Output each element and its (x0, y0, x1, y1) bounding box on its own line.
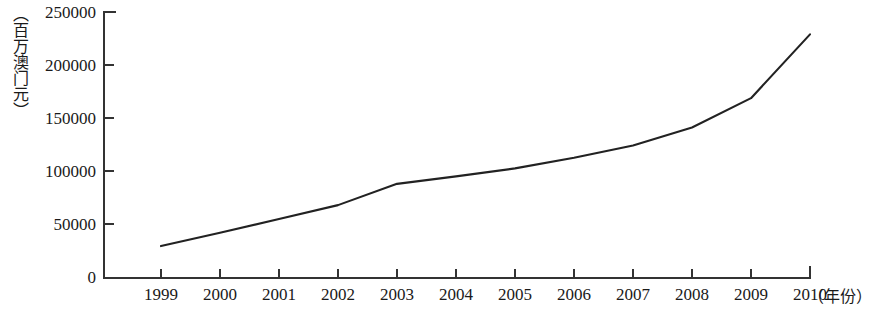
x-tick-label: 2008 (662, 286, 722, 304)
x-tick-label: 2005 (485, 286, 545, 304)
plot-area (0, 0, 879, 310)
line-chart: （百万澳门元） 250000 200000 150000 100000 5000… (0, 0, 879, 310)
x-tick-label: 2003 (367, 286, 427, 304)
x-tick-label: 2001 (249, 286, 309, 304)
x-tick-label: 2007 (603, 286, 663, 304)
axis-frame (104, 12, 810, 278)
data-series-line (161, 34, 810, 246)
x-tick-label: 2000 (190, 286, 250, 304)
x-tick-label: 2006 (544, 286, 604, 304)
x-axis-ticks (161, 269, 810, 278)
x-axis-tick-labels: 1999200020012002200320042005200620072008… (0, 286, 879, 310)
x-tick-label: 2004 (426, 286, 486, 304)
x-tick-label: 2002 (308, 286, 368, 304)
x-tick-label: 1999 (131, 286, 191, 304)
x-axis-title: （年份） (808, 288, 872, 306)
y-axis-ticks (104, 12, 114, 224)
x-tick-label: 2009 (721, 286, 781, 304)
